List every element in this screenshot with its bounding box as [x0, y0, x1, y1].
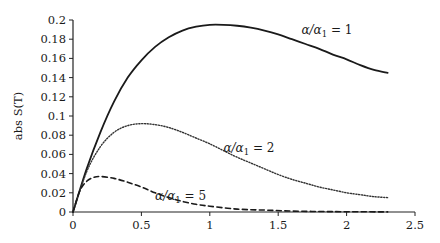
y-tick-label: 0.1	[48, 109, 66, 123]
x-tick-label: 2.5	[406, 218, 424, 232]
y-tick-label: 0.16	[40, 51, 66, 65]
x-tick-label: 1	[206, 218, 213, 232]
x-tick-label: 2	[343, 218, 350, 232]
axes: 00.020.040.060.080.10.120.140.160.180.20…	[40, 13, 424, 232]
y-tick-label: 0.02	[40, 186, 66, 200]
series-layer	[73, 25, 388, 212]
series-annotation-2: α/α1 = 2	[223, 141, 274, 157]
series-line-2	[73, 124, 388, 212]
series-annotation-1: α/α1 = 1	[301, 23, 352, 39]
x-tick-label: 1.5	[269, 218, 287, 232]
y-tick-label: 0.12	[40, 90, 66, 104]
y-tick-label: 0.2	[48, 13, 66, 27]
series-annotation-3: α/α1 = 5	[155, 189, 206, 205]
y-axis-label: abs S(T)	[11, 92, 25, 140]
x-tick-label: 0.5	[132, 218, 150, 232]
y-tick-label: 0.18	[40, 32, 66, 46]
y-tick-label: 0	[59, 205, 66, 219]
x-tick-label: 0	[69, 218, 76, 232]
line-chart: 00.020.040.060.080.10.120.140.160.180.20…	[0, 0, 440, 243]
series-line-3	[73, 176, 388, 212]
y-tick-label: 0.04	[40, 167, 66, 181]
series-line-1	[73, 25, 388, 212]
y-tick-label: 0.14	[40, 71, 66, 85]
y-tick-label: 0.08	[40, 128, 66, 142]
y-tick-label: 0.06	[40, 147, 66, 161]
